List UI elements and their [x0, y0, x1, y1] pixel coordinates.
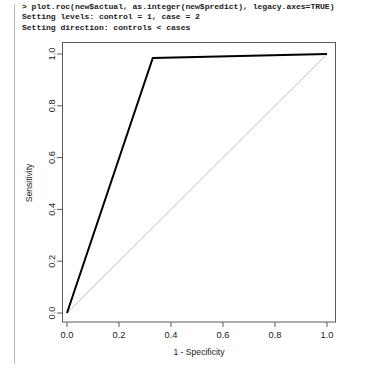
r-console-pane: > plot.roc(new$actual, as.integer(new$pr…	[0, 0, 376, 371]
console-line-command: > plot.roc(new$actual, as.integer(new$pr…	[22, 2, 374, 12]
console-output: > plot.roc(new$actual, as.integer(new$pr…	[22, 2, 374, 33]
console-line-direction: Setting direction: controls < cases	[22, 23, 374, 33]
console-line-levels: Setting levels: control = 1, case = 2	[22, 12, 374, 22]
console-left-border	[14, 4, 15, 364]
